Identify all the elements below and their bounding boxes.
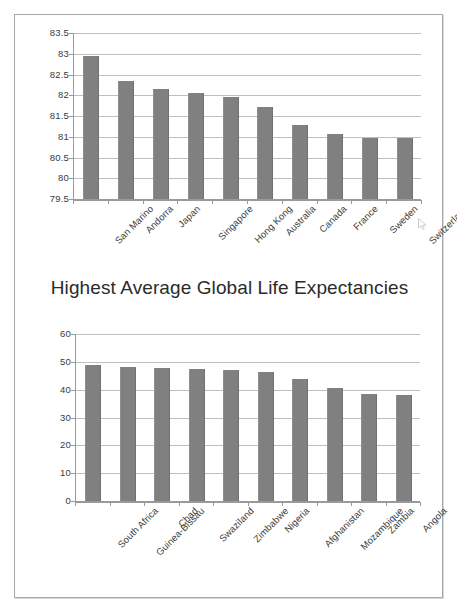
chart-lowest-life-expectancy: 6050403020100 South AfricaGuinea-BissauC… <box>15 312 444 599</box>
x-axis-line-bottom <box>75 502 421 503</box>
bar <box>83 56 99 199</box>
y-axis-tick-label: 20 <box>60 440 71 450</box>
y-axis-tick-label: 80.5 <box>50 153 69 163</box>
bar <box>292 379 308 501</box>
y-axis-tick <box>69 116 73 117</box>
y-axis-tick <box>69 75 73 76</box>
y-axis-tick <box>71 445 75 446</box>
bar <box>396 395 412 501</box>
gridline <box>73 54 421 55</box>
bar <box>258 372 274 501</box>
x-axis-category-label: Singapore <box>216 203 255 242</box>
y-axis-line-top <box>73 33 74 200</box>
bar <box>327 134 343 199</box>
y-axis-tick-label: 40 <box>60 385 71 395</box>
y-axis-tick <box>71 418 75 419</box>
x-axis-category-label: Sweden <box>387 203 419 235</box>
x-axis-category-label: Angola <box>420 505 449 534</box>
chart-highest-life-expectancy: 83.58382.58281.58180.58079.5 San MarinoA… <box>15 15 444 307</box>
x-axis-category-label: South Africa <box>116 505 161 550</box>
gridline <box>75 334 420 335</box>
bar <box>223 370 239 501</box>
gridline <box>73 33 421 34</box>
y-axis-tick-label: 82.5 <box>50 70 69 80</box>
gridline <box>73 75 421 76</box>
y-axis-tick <box>71 362 75 363</box>
y-axis-tick <box>69 158 73 159</box>
scanned-page-frame: 83.58382.58281.58180.58079.5 San MarinoA… <box>14 14 443 598</box>
y-axis-tick-label: 79.5 <box>50 194 69 204</box>
bar <box>257 107 273 199</box>
bar <box>153 89 169 199</box>
bar <box>189 369 205 501</box>
bar <box>154 368 170 501</box>
y-axis-line-bottom <box>75 334 76 502</box>
y-axis-tick <box>71 473 75 474</box>
bar <box>327 388 343 501</box>
bar <box>118 81 134 199</box>
chart-title-highest: Highest Average Global Life Expectancies <box>15 277 444 299</box>
y-axis-tick-label: 80 <box>58 173 69 183</box>
plot-area-top <box>73 33 421 199</box>
y-axis-tick <box>69 178 73 179</box>
y-axis-tick <box>71 390 75 391</box>
bar <box>223 97 239 199</box>
gridline <box>75 362 420 363</box>
y-axis-tick-label: 10 <box>60 468 71 478</box>
y-axis-tick <box>69 33 73 34</box>
y-axis-tick <box>69 95 73 96</box>
x-axis-category-labels-top: San MarinoAndorraJapanSingaporeHong Kong… <box>73 203 422 273</box>
bar <box>85 365 101 501</box>
x-axis-line-top <box>73 200 422 201</box>
plot-area-bottom <box>75 334 420 501</box>
x-axis-category-label: Swaziland <box>217 505 256 544</box>
y-axis-tick-label: 83 <box>58 49 69 59</box>
x-axis-category-label: Canada <box>317 203 349 235</box>
x-axis-category-label: Switzerland <box>426 203 457 246</box>
y-axis-tick-label: 83.5 <box>50 28 69 38</box>
bar <box>362 138 378 199</box>
y-axis-tick <box>69 137 73 138</box>
bar <box>361 394 377 501</box>
y-axis-tick-label: 81.5 <box>50 111 69 121</box>
y-axis-tick-label: 82 <box>58 90 69 100</box>
y-axis-tick <box>71 334 75 335</box>
y-axis-tick-label: 81 <box>58 132 69 142</box>
y-axis-tick-label: 50 <box>60 357 71 367</box>
y-axis-tick-label: 60 <box>60 329 71 339</box>
x-axis-category-label: France <box>351 203 380 232</box>
bar <box>188 93 204 199</box>
y-axis-tick-label: 30 <box>60 413 71 423</box>
bar <box>120 367 136 501</box>
bar <box>292 125 308 199</box>
x-axis-category-labels-bottom: South AfricaGuinea-BissauChadSwazilandZi… <box>75 505 421 575</box>
y-axis-tick <box>69 54 73 55</box>
x-axis-category-label: Japan <box>176 203 202 229</box>
mouse-pointer-icon <box>418 218 427 230</box>
bar <box>397 138 413 199</box>
